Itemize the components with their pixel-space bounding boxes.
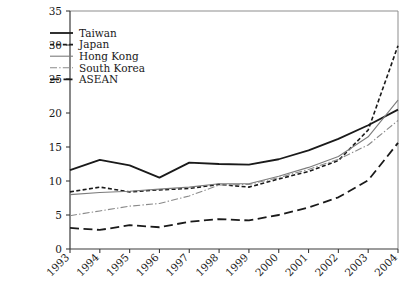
legend-label-hong-kong: Hong Kong bbox=[79, 50, 139, 62]
line-chart: 05101520253035 1993199419951996199719981… bbox=[0, 0, 420, 292]
legend-label-south-korea: South Korea bbox=[79, 62, 145, 74]
legend-label-taiwan: Taiwan bbox=[79, 27, 117, 39]
y-tick-label: 20 bbox=[49, 107, 62, 119]
y-tick-label: 35 bbox=[49, 5, 62, 17]
legend-label-asean: ASEAN bbox=[78, 73, 118, 85]
chart-canvas: 05101520253035 1993199419951996199719981… bbox=[0, 0, 420, 292]
legend-label-japan: Japan bbox=[78, 38, 109, 50]
y-tick-label: 15 bbox=[49, 141, 62, 153]
y-tick-label: 5 bbox=[55, 209, 62, 221]
y-tick-label: 10 bbox=[49, 175, 62, 187]
